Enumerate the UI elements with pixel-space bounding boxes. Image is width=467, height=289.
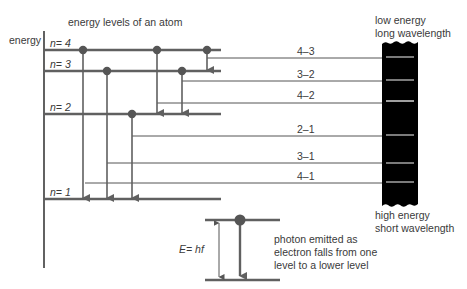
electron-dot xyxy=(79,46,87,54)
inset-electron-dot xyxy=(235,215,246,226)
electron-dot xyxy=(203,46,211,54)
level-label-n4: n= 4 xyxy=(50,37,71,49)
transition-connectors xyxy=(85,58,384,183)
electron-dot xyxy=(103,67,111,75)
electron-dot xyxy=(178,67,186,75)
level-label-n1: n= 1 xyxy=(50,186,71,198)
emission-spectrum xyxy=(382,41,418,207)
level-label-n3: n= 3 xyxy=(50,58,71,70)
spectrum-top-label-1: low energy xyxy=(375,14,426,26)
inset-caption-1: photon emitted as xyxy=(274,233,357,245)
inset-equation: E= hf xyxy=(179,243,204,255)
energy-axis-label: energy xyxy=(9,34,41,46)
transition-label-4-1: 4–1 xyxy=(297,170,315,182)
transition-label-3-2: 3–2 xyxy=(297,68,315,80)
transition-label-4-2: 4–2 xyxy=(297,89,315,101)
transition-label-2-1: 2–1 xyxy=(297,123,315,135)
level-label-n2: n= 2 xyxy=(50,101,71,113)
inset-caption-3: level to a lower level xyxy=(274,259,369,271)
transition-label-3-1: 3–1 xyxy=(297,150,315,162)
spectrum-bottom-label-1: high energy xyxy=(375,209,430,221)
spectrum-top-label-2: long wavelength xyxy=(375,27,451,39)
diagram-title: energy levels of an atom xyxy=(68,16,182,28)
spectrum-bottom-label-2: short wavelength xyxy=(375,222,454,234)
inset-caption-2: electron falls from one xyxy=(274,246,377,258)
electron-dots xyxy=(79,46,211,118)
photon-emission-inset xyxy=(205,215,280,281)
electron-dot xyxy=(128,110,136,118)
transition-label-4-3: 4–3 xyxy=(297,45,315,57)
electron-dot xyxy=(153,46,161,54)
